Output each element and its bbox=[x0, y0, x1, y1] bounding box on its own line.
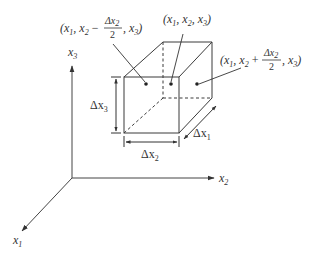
point-label-right: (x1, x2 + Δx2 2 , x3) bbox=[220, 47, 301, 72]
svg-text:2: 2 bbox=[110, 29, 115, 40]
x2-axis-label: x2 bbox=[218, 171, 228, 187]
dx3-label: Δx3 bbox=[90, 98, 108, 114]
svg-text:(x1, x2 +: (x1, x2 + bbox=[220, 53, 259, 69]
right-face bbox=[179, 42, 212, 133]
volume-element-cube bbox=[124, 42, 212, 133]
center-point bbox=[169, 82, 173, 86]
svg-text:, x3): , x3) bbox=[123, 21, 142, 37]
svg-text:(x1, x2 −: (x1, x2 − bbox=[60, 21, 99, 37]
coordinate-axes bbox=[22, 66, 214, 231]
volume-element-diagram: x3 x2 x1 Δx3 Δx2 Δx1 bbox=[0, 0, 318, 256]
svg-text:, x3): , x3) bbox=[282, 53, 301, 69]
svg-text:(x1, x2, x3): (x1, x2, x3) bbox=[163, 12, 211, 28]
points bbox=[144, 82, 199, 86]
dx2-label: Δx2 bbox=[141, 147, 159, 163]
dx1-label: Δx1 bbox=[193, 126, 211, 142]
point-label-left: (x1, x2 − Δx2 2 , x3) bbox=[60, 15, 142, 40]
x3-axis-label: x3 bbox=[67, 45, 77, 61]
svg-text:2: 2 bbox=[269, 61, 274, 72]
left-face-point bbox=[144, 82, 148, 86]
right-face-point bbox=[195, 82, 199, 86]
svg-text:Δx2: Δx2 bbox=[263, 47, 278, 60]
x1-axis-label: x1 bbox=[12, 233, 22, 249]
svg-text:Δx2: Δx2 bbox=[104, 15, 119, 28]
top-face bbox=[124, 42, 212, 77]
point-label-center: (x1, x2, x3) bbox=[163, 12, 211, 28]
x1-axis bbox=[22, 178, 72, 231]
